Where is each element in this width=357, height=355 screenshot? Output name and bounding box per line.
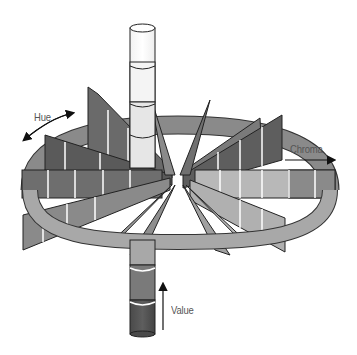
munsell-solid-illustration: [0, 0, 357, 355]
chroma-bar-horizontal: [22, 170, 335, 198]
munsell-diagram: Hue Chroma Value: [0, 0, 357, 355]
chroma-label: Chroma: [290, 143, 323, 155]
hue-label: Hue: [34, 111, 51, 123]
value-label: Value: [171, 304, 194, 316]
